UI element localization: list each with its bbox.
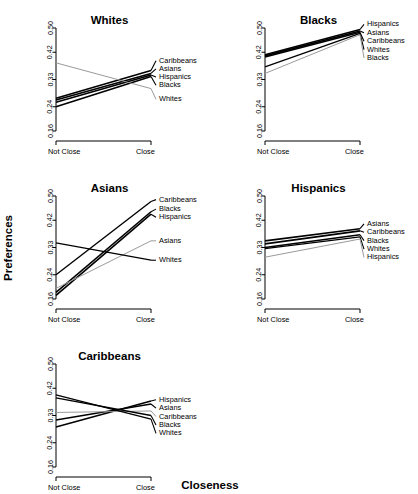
- y-tick-label: 0.16: [255, 124, 264, 138]
- legend-label-hispanics: Hispanics: [367, 252, 399, 261]
- preferences-closeness-figure: Preferences Closeness Whites0.160.240.33…: [0, 0, 418, 494]
- y-tick-label: 0.16: [255, 292, 264, 306]
- panel-title: Caribbeans: [78, 350, 141, 362]
- y-tick-label: 0.42: [255, 213, 264, 227]
- y-tick-label: 0.42: [46, 213, 55, 227]
- legend-label-asians: Asians: [159, 236, 181, 245]
- y-tick-label: 0.50: [46, 189, 55, 203]
- figure-background: [0, 0, 418, 494]
- y-tick-label: 0.42: [46, 381, 55, 395]
- y-tick-label: 0.33: [46, 73, 55, 87]
- legend-label-caribbeans: Caribbeans: [159, 195, 197, 204]
- legend-label-hispanics: Hispanics: [159, 212, 191, 221]
- legend-label-blacks: Blacks: [159, 80, 181, 89]
- x-tick-label-not-close: Not Close: [48, 483, 80, 492]
- y-tick-label: 0.50: [255, 189, 264, 203]
- x-tick-label-not-close: Not Close: [48, 147, 80, 156]
- x-tick-label-close: Close: [136, 147, 155, 156]
- y-axis-title: Preferences: [2, 215, 14, 281]
- panel-title: Hispanics: [291, 182, 345, 194]
- y-tick-label: 0.50: [46, 21, 55, 35]
- legend-label-whites: Whites: [159, 94, 182, 103]
- x-tick-label-not-close: Not Close: [48, 315, 80, 324]
- y-tick-label: 0.24: [255, 268, 264, 282]
- y-tick-label: 0.24: [255, 100, 264, 114]
- x-tick-label-close: Close: [136, 315, 155, 324]
- x-tick-label-close: Close: [345, 147, 364, 156]
- legend-label-blacks: Blacks: [367, 53, 389, 62]
- y-tick-label: 0.33: [255, 241, 264, 255]
- y-tick-label: 0.24: [46, 268, 55, 282]
- x-tick-label-close: Close: [345, 315, 364, 324]
- y-tick-label: 0.24: [46, 100, 55, 114]
- legend-label-whites: Whites: [159, 255, 182, 264]
- y-tick-label: 0.42: [255, 45, 264, 59]
- x-axis-title: Closeness: [181, 479, 239, 491]
- panel-title: Blacks: [300, 14, 337, 26]
- y-tick-label: 0.33: [46, 409, 55, 423]
- y-tick-label: 0.16: [46, 292, 55, 306]
- legend-label-whites: Whites: [159, 428, 182, 437]
- x-tick-label-close: Close: [136, 483, 155, 492]
- y-tick-label: 0.50: [255, 21, 264, 35]
- x-tick-label-not-close: Not Close: [257, 315, 289, 324]
- y-tick-label: 0.50: [46, 357, 55, 371]
- y-tick-label: 0.33: [255, 73, 264, 87]
- y-tick-label: 0.33: [46, 241, 55, 255]
- y-tick-label: 0.42: [46, 45, 55, 59]
- y-tick-label: 0.16: [46, 124, 55, 138]
- y-tick-label: 0.24: [46, 436, 55, 450]
- panel-title: Whites: [91, 14, 129, 26]
- panel-title: Asians: [91, 182, 129, 194]
- y-tick-label: 0.16: [46, 460, 55, 474]
- x-tick-label-not-close: Not Close: [257, 147, 289, 156]
